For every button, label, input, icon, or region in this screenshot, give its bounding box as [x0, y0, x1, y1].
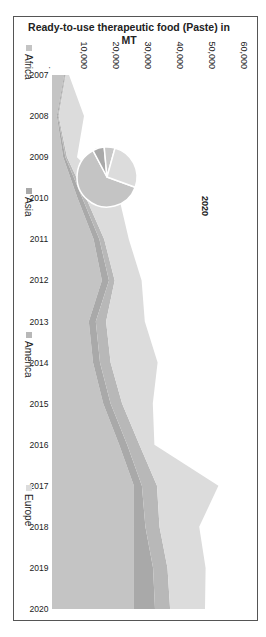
x-tick-label: 2012 — [30, 275, 49, 285]
legend-label: Asia — [23, 197, 34, 217]
area-series — [52, 75, 218, 609]
x-tick-label: 2009 — [30, 152, 49, 162]
inset-pie-chart — [77, 147, 137, 207]
y-axis-label: Ready-to-use therapeutic food (Paste) in… — [28, 21, 230, 46]
x-tick-label: 2013 — [30, 317, 49, 327]
stacked-area-chart: 10,00020,00030,00040,00050,00060,000. 20… — [12, 17, 257, 622]
y-axis-label-line1: Ready-to-use therapeutic food (Paste) in — [28, 21, 230, 33]
legend-swatch — [26, 45, 32, 51]
y-tick-label: 20,000 — [111, 41, 121, 69]
legend-swatch — [26, 188, 32, 194]
legend-item-europe: Europe — [23, 485, 34, 527]
legend-swatch — [26, 485, 32, 491]
chart-frame: 10,00020,00030,00040,00050,00060,000. 20… — [13, 16, 258, 621]
pie-title: 2020 — [200, 196, 210, 216]
legend-item-america: America — [23, 332, 34, 378]
legend-item-africa: Africa — [23, 45, 34, 80]
y-tick-label: 60,000 — [239, 41, 249, 69]
y-axis: 10,00020,00030,00040,00050,00060,000. — [47, 41, 249, 69]
x-tick-label: 2017 — [30, 481, 49, 491]
legend-swatch — [26, 332, 32, 338]
x-tick-label: 2020 — [30, 604, 49, 614]
x-tick-label: 2019 — [30, 563, 49, 573]
y-tick-label: 10,000 — [79, 41, 89, 69]
legend-label: Africa — [23, 54, 34, 80]
legend-label: America — [23, 341, 34, 378]
x-tick-label: 2015 — [30, 399, 49, 409]
y-tick-label: 50,000 — [207, 41, 217, 69]
x-tick-label: 2016 — [30, 440, 49, 450]
x-tick-label: 2011 — [30, 234, 49, 244]
y-tick-label: 30,000 — [143, 41, 153, 69]
y-tick-label: . — [47, 66, 57, 69]
rotated-chart-container: 10,00020,00030,00040,00050,00060,000. 20… — [0, 0, 266, 637]
x-tick-label: 2008 — [30, 111, 49, 121]
y-tick-label: 40,000 — [175, 41, 185, 69]
y-axis-label-line2: MT — [121, 34, 137, 46]
legend-label: Europe — [23, 494, 34, 527]
